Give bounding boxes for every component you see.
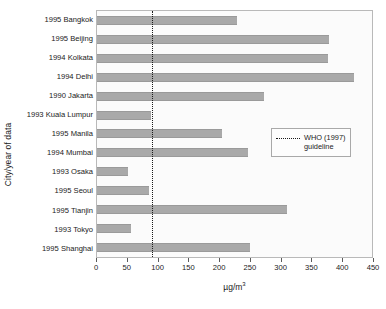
x-axis-title: µg/m3 <box>96 281 373 292</box>
bar <box>97 129 222 138</box>
bar <box>97 16 237 25</box>
x-axis-tick-label: 450 <box>367 263 380 272</box>
category-label: 1995 Manila <box>14 124 96 143</box>
bar <box>97 35 329 44</box>
legend: WHO (1997) guideline <box>271 128 351 157</box>
bar <box>97 111 151 120</box>
bar <box>97 224 131 233</box>
x-axis-tick <box>188 258 189 262</box>
bar <box>97 73 354 82</box>
who-guideline-legend-label: WHO (1997) guideline <box>304 133 345 152</box>
x-axis-tick-label: 350 <box>305 263 318 272</box>
category-label: 1995 Shanghai <box>14 239 96 258</box>
bar-row <box>97 200 372 219</box>
bar-row <box>97 11 372 30</box>
x-axis-tick-label: 400 <box>336 263 349 272</box>
x-axis-tick <box>281 258 282 262</box>
x-axis-tick <box>127 258 128 262</box>
bar <box>97 205 287 214</box>
bar-row <box>97 30 372 49</box>
category-label-column: 1995 Bangkok1995 Beijing1994 Kolkata1994… <box>14 10 96 258</box>
category-label: 1994 Delhi <box>14 67 96 86</box>
bar-row <box>97 219 372 238</box>
x-axis-tick-label: 250 <box>244 263 257 272</box>
x-axis-tick <box>342 258 343 262</box>
category-label: 1993 Osaka <box>14 163 96 182</box>
bar <box>97 54 328 63</box>
bar <box>97 243 250 252</box>
bar-row <box>97 87 372 106</box>
who-guideline-line <box>152 11 153 257</box>
x-axis-tick-label: 100 <box>151 263 164 272</box>
x-axis-tick-label: 0 <box>94 263 98 272</box>
x-axis-tick <box>311 258 312 262</box>
category-label: 1990 Jakarta <box>14 86 96 105</box>
category-label: 1995 Beijing <box>14 29 96 48</box>
bar <box>97 186 149 195</box>
category-label: 1994 Kolkata <box>14 48 96 67</box>
x-axis-tick <box>373 258 374 262</box>
bar-row <box>97 181 372 200</box>
x-axis-tick-label: 50 <box>123 263 131 272</box>
category-label: 1995 Seoul <box>14 182 96 201</box>
bar-row <box>97 68 372 87</box>
x-axis-tick-labels: 050100150200250300350400450 <box>96 263 373 275</box>
x-axis-tick <box>96 258 97 262</box>
who-guideline-legend-swatch-icon <box>276 138 300 139</box>
x-axis-tick-label: 300 <box>274 263 287 272</box>
bar-row <box>97 162 372 181</box>
category-label: 1993 Kuala Lumpur <box>14 105 96 124</box>
bar <box>97 148 248 157</box>
bar <box>97 92 264 101</box>
x-axis-tick-label: 150 <box>182 263 195 272</box>
x-axis-title-text: µg/m3 <box>223 282 245 292</box>
category-label: 1995 Tianjin <box>14 201 96 220</box>
bar-row <box>97 106 372 125</box>
x-axis-tick <box>250 258 251 262</box>
x-axis-tick-label: 200 <box>213 263 226 272</box>
bar-row <box>97 238 372 257</box>
category-label: 1994 Mumbai <box>14 144 96 163</box>
particulate-matter-bar-chart: City/year of data 1995 Bangkok1995 Beiji… <box>0 0 386 309</box>
x-axis-tick <box>158 258 159 262</box>
x-axis-tick <box>219 258 220 262</box>
category-label: 1993 Tokyo <box>14 220 96 239</box>
category-label: 1995 Bangkok <box>14 10 96 29</box>
bar <box>97 167 128 176</box>
bar-row <box>97 49 372 68</box>
